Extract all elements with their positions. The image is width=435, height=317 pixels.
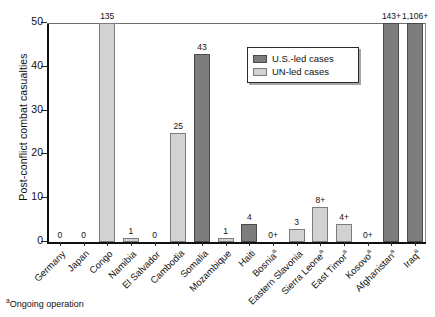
x-axis-label-japan: Japan <box>65 248 91 274</box>
bar-somalia <box>194 54 210 242</box>
x-axis-line <box>47 242 426 244</box>
bar-iraq <box>407 23 423 242</box>
bar-value-bosnia: 0+ <box>268 230 278 240</box>
right-rule <box>425 23 426 242</box>
ongoing-marker: a <box>269 247 277 255</box>
y-tick-label: 50 <box>31 15 43 28</box>
legend-item-un-led: UN-led cases <box>253 65 353 78</box>
ongoing-marker: a <box>365 247 373 255</box>
ongoing-marker: a <box>341 247 349 255</box>
legend-label-us-led: U.S.-led cases <box>272 53 334 65</box>
bar-value-iraq: 1,106+ <box>402 11 428 21</box>
bar-eastern-slavonia <box>289 229 305 242</box>
x-axis-label-iraq: Iraqa <box>401 248 423 270</box>
legend-label-un-led: UN-led cases <box>272 66 329 78</box>
legend-swatch-un-led <box>253 68 267 76</box>
chart-footnote: aOngoing operation <box>6 299 84 310</box>
chart-figure: Post-conflict combat casualties 01020304… <box>0 0 435 317</box>
y-tick-label: 10 <box>31 190 43 203</box>
y-axis-line <box>47 23 49 242</box>
bar-value-sierra-leone: 8+ <box>316 195 326 205</box>
y-tick-label: 30 <box>31 103 43 116</box>
bar-value-japan: 0 <box>81 230 86 240</box>
bar-value-germany: 0 <box>57 230 62 240</box>
bar-congo <box>99 23 115 242</box>
bar-sierra-leone <box>312 207 328 242</box>
legend-item-us-led: U.S.-led cases <box>253 52 353 65</box>
bar-afghanistan <box>383 23 399 242</box>
bar-value-cambodia: 25 <box>174 121 183 131</box>
ongoing-marker: a <box>317 247 325 255</box>
ongoing-marker: a <box>412 247 420 255</box>
bar-value-haiti: 4 <box>247 212 252 222</box>
bar-value-el-salvador: 0 <box>152 230 157 240</box>
y-tick-label: 40 <box>31 59 43 72</box>
bar-value-eastern-slavonia: 3 <box>294 217 299 227</box>
bar-haiti <box>241 224 257 242</box>
plot-area: 01020304050 00135102543140+38+4+0+143+1,… <box>47 23 426 242</box>
bar-east-timor <box>336 224 352 242</box>
bar-value-afghanistan: 143+ <box>382 11 401 21</box>
bar-value-east-timor: 4+ <box>339 212 349 222</box>
ongoing-marker: a <box>388 247 396 255</box>
footnote-text: Ongoing operation <box>10 299 84 309</box>
legend-swatch-us-led <box>253 55 267 63</box>
chart-legend: U.S.-led cases UN-led cases <box>247 47 359 83</box>
bar-value-mozambique: 1 <box>223 226 228 236</box>
x-axis-labels: GermanyJapanCongoNamibiaEl SalvadorCambo… <box>47 246 426 308</box>
bar-value-kosovo: 0+ <box>363 230 373 240</box>
bar-value-somalia: 43 <box>197 42 206 52</box>
y-axis-title: Post-conflict combat casualties <box>17 12 29 242</box>
y-tick-label: 20 <box>31 146 43 159</box>
y-tick-label: 0 <box>37 234 43 247</box>
x-axis-label-germany: Germany <box>32 248 67 283</box>
bar-cambodia <box>170 133 186 243</box>
bar-value-congo: 135 <box>100 11 114 21</box>
bar-value-namibia: 1 <box>129 226 134 236</box>
